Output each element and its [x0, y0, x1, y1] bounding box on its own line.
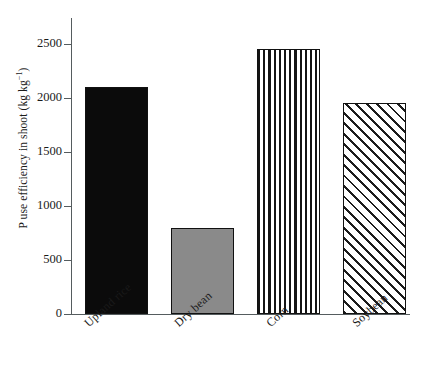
bar-corn[interactable] [257, 49, 320, 314]
y-tick-label-1500: 1500 [4, 145, 62, 157]
y-axis-label-exponent: −1 [15, 72, 24, 81]
y-axis-label-tail: ) [17, 68, 29, 72]
y-tick-label-2000: 2000 [4, 91, 62, 103]
plot-area [71, 18, 410, 314]
y-tick-label-1000: 1000 [4, 199, 62, 211]
y-tick-label-500: 500 [4, 253, 62, 265]
bar-upland-rice[interactable] [85, 87, 148, 314]
y-tick-label-2500: 2500 [4, 37, 62, 49]
bar-soybean[interactable] [343, 103, 406, 314]
y-tick-label-0: 0 [4, 307, 62, 319]
y-tick-0 [64, 314, 72, 315]
bar-chart-figure: P use efficiency in shoot (kg kg−1) 0 50… [0, 0, 427, 378]
